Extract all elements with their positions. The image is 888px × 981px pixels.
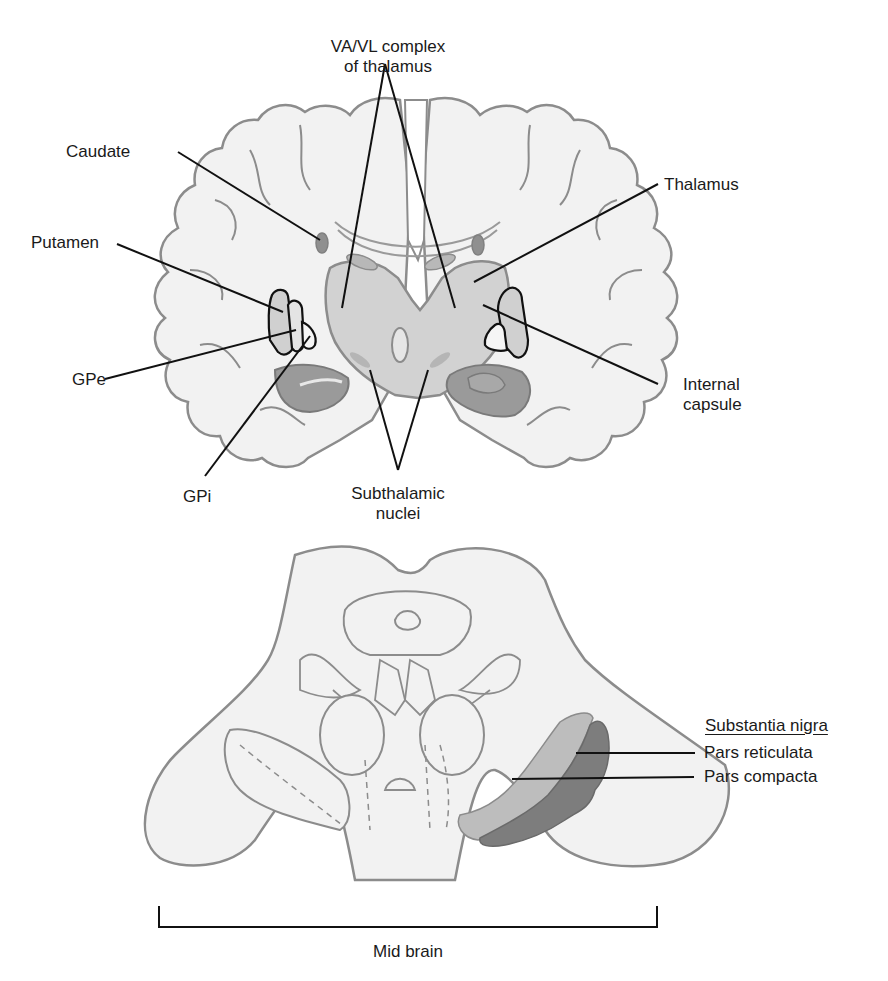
va-vl-label-line2: of thalamus <box>318 57 458 77</box>
subthalamic-nuclei-label: Subthalamic nuclei <box>338 484 458 524</box>
internal-capsule-line1: Internal <box>683 375 742 395</box>
midbrain-section <box>145 547 729 880</box>
subthalamic-line1: Subthalamic <box>338 484 458 504</box>
gpe-label: GPe <box>72 370 106 390</box>
caudate-right <box>472 235 484 255</box>
caudate-label: Caudate <box>66 142 130 162</box>
pars-reticulata-label: Pars reticulata <box>704 743 813 763</box>
internal-capsule-label: Internal capsule <box>683 375 742 415</box>
third-ventricle <box>392 328 408 362</box>
subthalamic-line2: nuclei <box>338 504 458 524</box>
substantia-nigra-label: Substantia nigra <box>705 716 828 736</box>
thalamus-label: Thalamus <box>664 175 739 195</box>
va-vl-label-line1: VA/VL complex <box>318 37 458 57</box>
gpi-label: GPi <box>183 487 211 507</box>
putamen-label: Putamen <box>31 233 99 253</box>
mid-brain-bracket <box>159 906 657 927</box>
mid-brain-label: Mid brain <box>348 942 468 962</box>
red-nucleus-left <box>320 695 384 775</box>
va-vl-complex-label: VA/VL complex of thalamus <box>318 37 458 77</box>
red-nucleus-right <box>420 695 484 775</box>
caudate-left <box>316 233 328 253</box>
internal-capsule-line2: capsule <box>683 395 742 415</box>
pars-compacta-label: Pars compacta <box>704 767 817 787</box>
